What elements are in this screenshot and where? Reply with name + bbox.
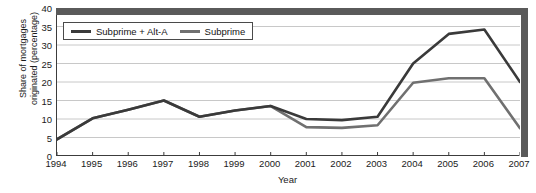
legend-entry-subprime-alt-a: Subprime + Alt-A bbox=[71, 26, 168, 37]
y-tick-label: 30 bbox=[41, 40, 52, 51]
series-line bbox=[57, 29, 520, 139]
x-tick-label: 2004 bbox=[402, 158, 423, 169]
x-axis-ticks bbox=[57, 152, 520, 156]
series-line bbox=[57, 78, 520, 139]
y-tick-label: 5 bbox=[47, 132, 52, 143]
legend-swatch-icon bbox=[180, 30, 200, 33]
x-tick-label: 1999 bbox=[223, 158, 244, 169]
x-tick-label: 2001 bbox=[295, 158, 316, 169]
frame-right-bar bbox=[521, 8, 528, 157]
x-tick-label: 1997 bbox=[152, 158, 173, 169]
x-tick-label: 2002 bbox=[330, 158, 351, 169]
y-tick-label: 20 bbox=[41, 77, 52, 88]
frame-top-bar bbox=[56, 8, 528, 15]
y-tick-label: 35 bbox=[41, 21, 52, 32]
chart-legend: Subprime + Alt-A Subprime bbox=[63, 22, 253, 40]
legend-label: Subprime + Alt-A bbox=[96, 26, 168, 37]
y-tick-label: 15 bbox=[41, 95, 52, 106]
x-tick-label: 1995 bbox=[81, 158, 102, 169]
chart-figure: Share of mortgages originated (percentag… bbox=[0, 0, 536, 193]
x-tick-label: 2000 bbox=[259, 158, 280, 169]
x-tick-label: 1998 bbox=[188, 158, 209, 169]
x-tick-label: 1994 bbox=[45, 158, 66, 169]
x-tick-label: 2003 bbox=[366, 158, 387, 169]
x-tick-label: 2007 bbox=[508, 158, 529, 169]
y-axis-tick-labels: 0510152025303540 bbox=[28, 8, 52, 156]
x-tick-label: 1996 bbox=[117, 158, 138, 169]
y-tick-label: 40 bbox=[41, 3, 52, 14]
x-tick-label: 2006 bbox=[473, 158, 494, 169]
series-lines bbox=[57, 29, 520, 139]
x-axis-title: Year bbox=[56, 174, 519, 185]
x-tick-label: 2005 bbox=[437, 158, 458, 169]
legend-entry-subprime: Subprime bbox=[180, 26, 246, 37]
y-tick-label: 10 bbox=[41, 114, 52, 125]
legend-label: Subprime bbox=[205, 26, 246, 37]
x-axis-tick-labels: 1994199519961997199819992000200120022003… bbox=[56, 158, 519, 172]
legend-swatch-icon bbox=[71, 30, 91, 33]
y-tick-label: 25 bbox=[41, 58, 52, 69]
